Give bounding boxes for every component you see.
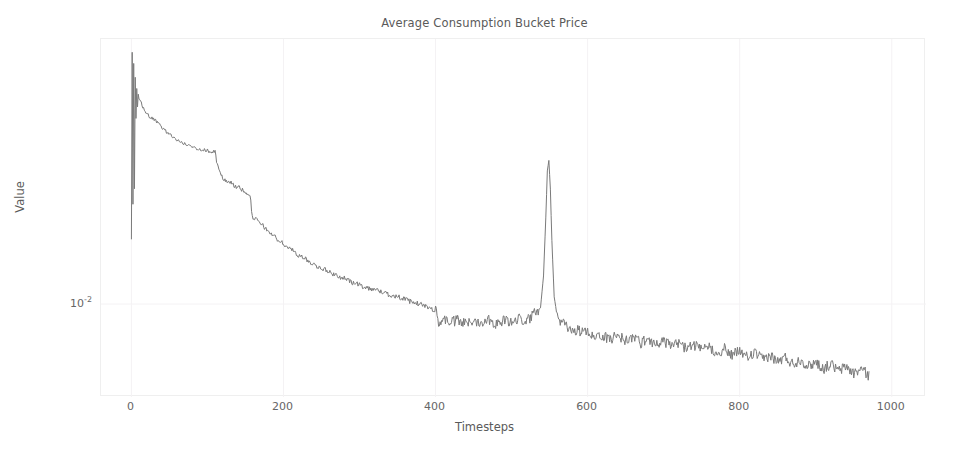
y-tick-label-1e-2: 10-2 — [70, 297, 92, 310]
x-tick-label-1000: 1000 — [877, 400, 905, 413]
x-tick-label-600: 600 — [576, 400, 597, 413]
y-tick-labels: 10-2 — [0, 0, 92, 457]
x-tick-label-0: 0 — [127, 400, 134, 413]
data-series-line — [131, 52, 869, 380]
figure-canvas: Average Consumption Bucket Price Value 1… — [0, 0, 969, 457]
chart-title: Average Consumption Bucket Price — [0, 16, 969, 30]
plot-area[interactable] — [100, 38, 925, 396]
x-axis-label: Timesteps — [0, 420, 969, 434]
x-tick-label-200: 200 — [272, 400, 293, 413]
x-tick-label-800: 800 — [728, 400, 749, 413]
y-tick-base: 10 — [70, 297, 84, 310]
x-tick-label-400: 400 — [424, 400, 445, 413]
y-tick-exponent: -2 — [84, 295, 92, 304]
plot-svg — [101, 39, 926, 397]
grid-vertical — [131, 39, 891, 397]
